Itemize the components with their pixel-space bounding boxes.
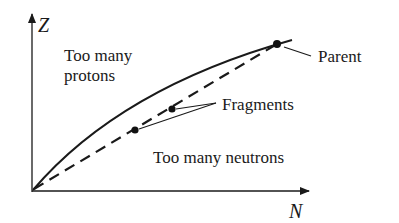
fission-diagram: Z N Parent Fragments Too many protons To… — [0, 0, 399, 223]
fragment-leader-1 — [176, 103, 216, 109]
parent-dot — [273, 40, 281, 48]
region-too-many-neutrons: Too many neutrons — [153, 148, 284, 167]
region-too-many-protons-line1: Too many — [64, 46, 133, 65]
z-axis-label: Z — [38, 14, 50, 36]
fragments-label: Fragments — [222, 95, 294, 114]
parent-label: Parent — [318, 47, 362, 66]
n-axis-label: N — [288, 200, 304, 222]
fragment-dot-1 — [168, 105, 175, 112]
fragment-dot-2 — [131, 126, 138, 133]
parent-leader — [284, 47, 311, 56]
fragment-leader-2 — [139, 103, 216, 129]
region-too-many-protons-line2: protons — [64, 66, 115, 85]
